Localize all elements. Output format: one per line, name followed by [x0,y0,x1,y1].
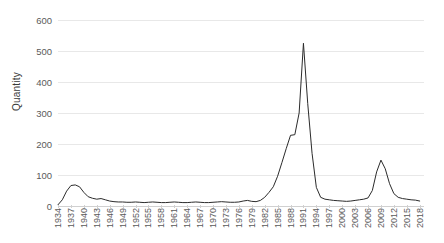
x-axis-tick-label: 1991 [298,208,308,228]
x-axis-tick-label: 1958 [156,208,166,228]
y-axis-tick-label: 600 [2,15,52,26]
series-line-quantity [58,20,424,206]
x-axis-tick-label: 1979 [247,208,257,228]
x-axis-tick-label: 1946 [105,208,115,228]
series-polyline [58,43,420,205]
plot-area [58,20,424,206]
x-axis-tick-label: 2015 [402,208,412,228]
x-axis-tick-label: 1937 [66,208,76,228]
x-axis-tick-label: 1943 [92,208,102,228]
y-axis-tick-label: 400 [2,77,52,88]
x-axis-tick-label: 1976 [234,208,244,228]
y-axis-tick-label: 200 [2,139,52,150]
y-axis-tick-label: 500 [2,46,52,57]
x-axis-tick-label: 1994 [311,208,321,228]
x-axis-tick-label: 1934 [53,208,63,228]
x-axis-tick-label: 1985 [273,208,283,228]
x-axis-tick-label: 2006 [363,208,373,228]
x-axis-tick-label: 1967 [195,208,205,228]
x-axis-tick-label: 1973 [221,208,231,228]
x-axis-tick-label: 1955 [143,208,153,228]
x-axis-tick-label: 1970 [208,208,218,228]
x-axis-tick-label: 1952 [131,208,141,228]
x-axis-tick-label: 2000 [337,208,347,228]
x-axis-tick-label: 1988 [286,208,296,228]
x-axis-tick-label: 1964 [182,208,192,228]
y-axis-tick-label: 300 [2,108,52,119]
x-axis-tick-label: 2003 [350,208,360,228]
x-axis-tick-labels: 1934193719401943194619491952195519581961… [58,208,424,243]
x-axis-tick-label: 1997 [324,208,334,228]
y-axis-tick-label: 100 [2,170,52,181]
y-axis-tick-labels: 0100200300400500600 [0,0,52,243]
x-axis-tick-label: 2018 [415,208,425,228]
x-axis-tick-label: 2009 [376,208,386,228]
x-axis-tick-label: 1949 [118,208,128,228]
x-axis-tick-label: 1940 [79,208,89,228]
y-axis-tick-label: 0 [2,201,52,212]
x-axis-tick-label: 2012 [389,208,399,228]
x-axis-line [58,206,424,207]
x-axis-tick-label: 1961 [169,208,179,228]
x-axis-tick-label: 1982 [260,208,270,228]
chart-container: Quantity 0100200300400500600 19341937194… [0,0,444,243]
